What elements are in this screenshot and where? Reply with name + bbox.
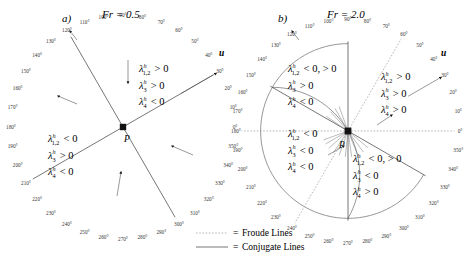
figure-canvas: 0°10°20°30°40°50°60°70°80°90°100°110°120…: [0, 0, 473, 265]
legend-conjugate-equals: =: [233, 242, 238, 252]
legend: = Froude Lines = Conjugate Lines: [0, 0, 473, 265]
legend-froude-label: Froude Lines: [242, 228, 293, 238]
legend-conjugate-label: Conjugate Lines: [242, 242, 305, 252]
legend-froude-equals: =: [233, 228, 238, 238]
